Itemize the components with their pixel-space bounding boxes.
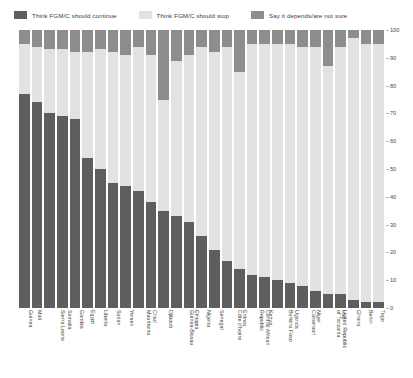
bar-segment-stop xyxy=(310,47,321,292)
bar-segment-continue xyxy=(32,102,43,308)
bar-gambia[interactable] xyxy=(70,30,81,308)
bar-guinea[interactable] xyxy=(19,30,30,308)
bar-iraq[interactable] xyxy=(335,30,346,308)
y-axis: 0102030405060708090100 xyxy=(386,30,412,308)
bar-uganda[interactable] xyxy=(285,30,296,308)
bar-segment-depends xyxy=(348,30,359,38)
bar-liberia[interactable] xyxy=(95,30,106,308)
bar-guinea-bissau[interactable] xyxy=(171,30,182,308)
bar-senegal[interactable] xyxy=(209,30,220,308)
legend-label-depends: Say it depends/are not sure xyxy=(269,12,347,19)
bar-egypt[interactable] xyxy=(82,30,93,308)
x-label-cell: Djibouti xyxy=(158,310,169,378)
bar-segment-depends xyxy=(272,30,283,44)
bar-central-african-republic[interactable] xyxy=(247,30,258,308)
bar-segment-stop xyxy=(196,47,207,236)
bar-djibouti[interactable] xyxy=(158,30,169,308)
bar-segment-stop xyxy=(297,47,308,286)
bar-cameroon[interactable] xyxy=(297,30,308,308)
x-label-cell: Cameroon xyxy=(297,310,308,378)
y-tick-mark xyxy=(386,225,389,226)
bar-segment-depends xyxy=(209,30,220,52)
bar-mauritania[interactable] xyxy=(133,30,144,308)
y-tick-mark xyxy=(386,86,389,87)
x-label-cell: Niger xyxy=(310,310,321,378)
bar-segment-continue xyxy=(310,291,321,308)
legend-item-continue: Think FGM/C should continue xyxy=(14,11,117,19)
y-tick-label: 100 xyxy=(390,27,399,33)
y-tick-mark xyxy=(386,113,389,114)
bar-eritrea[interactable] xyxy=(234,30,245,308)
legend-swatch-depends xyxy=(251,11,264,19)
y-tick-label: 30 xyxy=(390,222,396,228)
bar-segment-continue xyxy=(234,269,245,308)
y-tick-label: 10 xyxy=(390,277,396,283)
y-tick-label: 0 xyxy=(390,305,393,311)
bar-united-republic-of-tanzania[interactable] xyxy=(323,30,334,308)
bar-chad[interactable] xyxy=(146,30,157,308)
bar-segment-continue xyxy=(196,236,207,308)
y-tick-mark xyxy=(386,30,389,31)
bar-sudan[interactable] xyxy=(108,30,119,308)
bar-niger[interactable] xyxy=(310,30,321,308)
bar-segment-stop xyxy=(348,38,359,299)
x-axis-label: Togo xyxy=(379,310,385,322)
bar-segment-continue xyxy=(247,275,258,308)
bar-c-te-d-ivoire[interactable] xyxy=(222,30,233,308)
x-axis-label: Chad xyxy=(152,310,158,323)
bar-segment-stop xyxy=(259,44,270,278)
x-label-cell: Uganda xyxy=(285,310,296,378)
x-label-cell: Ghana xyxy=(348,310,359,378)
bar-segment-stop xyxy=(120,55,131,186)
bar-segment-continue xyxy=(146,202,157,308)
bar-segment-depends xyxy=(82,30,93,52)
bar-segment-depends xyxy=(361,30,372,44)
bar-segment-stop xyxy=(19,44,30,94)
bar-segment-stop xyxy=(361,44,372,303)
y-tick-label: 90 xyxy=(390,55,396,61)
x-axis-label: Mali xyxy=(36,310,42,320)
bar-segment-depends xyxy=(120,30,131,55)
bar-segment-stop xyxy=(373,44,384,303)
bar-nigeria[interactable] xyxy=(196,30,207,308)
bar-ghana[interactable] xyxy=(348,30,359,308)
x-axis-label: Egypt xyxy=(89,310,95,324)
bar-segment-depends xyxy=(247,30,258,44)
bar-segment-stop xyxy=(272,44,283,280)
bar-segment-continue xyxy=(209,250,220,308)
bar-segment-continue xyxy=(259,277,270,308)
bar-segment-stop xyxy=(184,55,195,222)
x-label-cell: Nigeria xyxy=(196,310,207,378)
bar-segment-stop xyxy=(108,52,119,183)
bar-kenya[interactable] xyxy=(259,30,270,308)
bar-segment-continue xyxy=(158,211,169,308)
bar-mali[interactable] xyxy=(32,30,43,308)
bar-segment-stop xyxy=(323,66,334,294)
bar-segment-continue xyxy=(133,191,144,308)
bar-benin[interactable] xyxy=(361,30,372,308)
bar-segment-continue xyxy=(82,158,93,308)
x-label-cell: Ethiopia xyxy=(184,310,195,378)
x-label-cell: Mauritania xyxy=(133,310,144,378)
bar-segment-continue xyxy=(19,94,30,308)
bar-togo[interactable] xyxy=(373,30,384,308)
bar-segment-depends xyxy=(108,30,119,52)
bar-segment-continue xyxy=(184,222,195,308)
bar-somalia[interactable] xyxy=(57,30,68,308)
bar-segment-depends xyxy=(19,30,30,44)
bar-ethiopia[interactable] xyxy=(184,30,195,308)
bar-segment-continue xyxy=(361,302,372,308)
y-tick-label: 50 xyxy=(390,166,396,172)
bar-sierra-leone[interactable] xyxy=(44,30,55,308)
bar-segment-continue xyxy=(373,302,384,308)
bar-segment-depends xyxy=(259,30,270,44)
x-label-cell: Burkina Faso xyxy=(272,310,283,378)
x-label-cell: Togo xyxy=(373,310,384,378)
bar-yemen[interactable] xyxy=(120,30,131,308)
y-tick-mark xyxy=(386,141,389,142)
legend-item-stop: Think FGM/C should stop xyxy=(139,11,229,19)
bar-segment-continue xyxy=(285,283,296,308)
bar-burkina-faso[interactable] xyxy=(272,30,283,308)
bar-segment-stop xyxy=(222,47,233,261)
x-label-cell: Somalia xyxy=(57,310,68,378)
